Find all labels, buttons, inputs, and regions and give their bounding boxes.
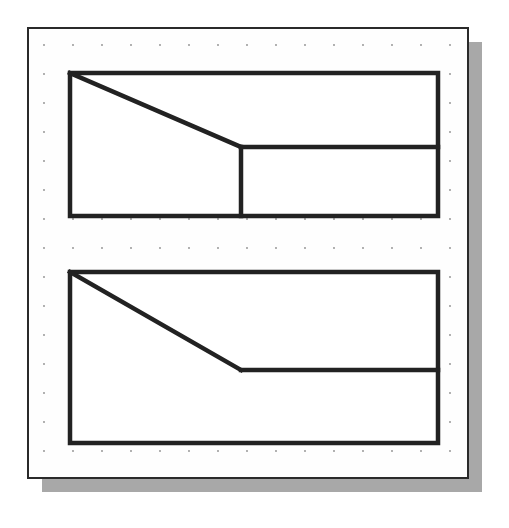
top-figure[interactable] <box>70 73 438 216</box>
technical-drawing-canvas[interactable] <box>0 0 509 528</box>
drawing-stage <box>0 0 509 528</box>
bottom-figure-outline[interactable] <box>70 272 438 443</box>
bottom-figure[interactable] <box>70 272 438 443</box>
